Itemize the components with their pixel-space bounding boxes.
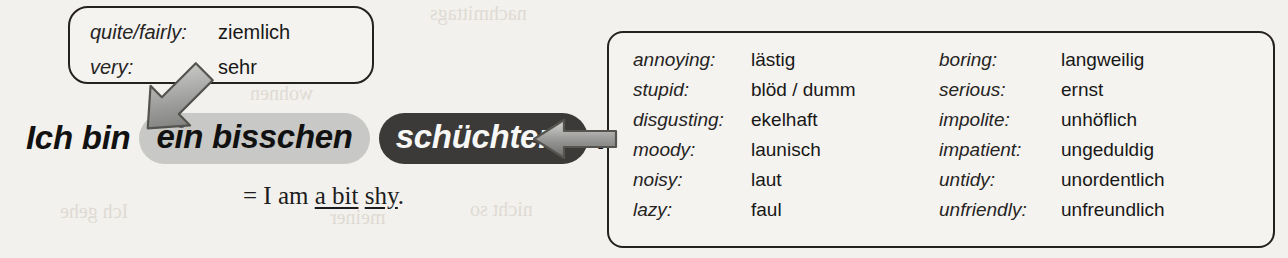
ghost-text: nachmittags xyxy=(430,2,527,25)
vocab-term: unfriendly: xyxy=(939,195,1061,224)
vocab-gloss: lästig xyxy=(751,45,856,74)
vocab-gloss: blöd / dumm xyxy=(751,75,856,104)
textbook-page-scan: nachmittags der Woche wohnen Ich gehe me… xyxy=(0,0,1288,258)
translation-underlined-adjective: shy xyxy=(365,182,398,209)
equals-sign: = xyxy=(243,182,257,209)
vocab-gloss: ziemlich xyxy=(218,16,290,49)
sentence-word-ich: Ich xyxy=(26,119,73,157)
vocab-gloss: unhöflich xyxy=(1061,105,1165,134)
adjective-vocabulary-callout: annoying: lästig stupid: blöd / dumm dis… xyxy=(607,31,1275,248)
translation-lead: I am xyxy=(263,182,308,209)
vocab-gloss: ernst xyxy=(1061,75,1165,104)
vocab-term: disgusting: xyxy=(633,105,751,134)
vocab-gloss: ekelhaft xyxy=(751,105,856,134)
vocab-gloss: unfreundlich xyxy=(1061,195,1165,224)
ghost-text: wohnen xyxy=(250,82,313,105)
vocab-term: boring: xyxy=(939,45,1061,74)
vocab-gloss: launisch xyxy=(751,135,856,164)
adjective-vocab-column-right: boring: langweilig serious: ernst impoli… xyxy=(939,45,1165,224)
vocab-term: impatient: xyxy=(939,135,1061,164)
translation-underlined-quantifier: a bit xyxy=(315,182,359,209)
vocab-term: moody: xyxy=(633,135,751,164)
vocab-gloss: ungeduldig xyxy=(1061,135,1165,164)
vocab-term: lazy: xyxy=(633,195,751,224)
adjective-vocab-column-left: annoying: lästig stupid: blöd / dumm dis… xyxy=(633,45,856,224)
example-sentence: Ich bin ein bisschen schüchtern . xyxy=(26,110,607,166)
vocab-term: untidy: xyxy=(939,165,1061,194)
intensifier-callout: quite/fairly: ziemlich very: sehr xyxy=(68,6,374,84)
translation-period: . xyxy=(398,182,404,209)
vocab-gloss: laut xyxy=(751,165,856,194)
ghost-text: Ich gehe xyxy=(60,200,128,223)
vocab-gloss: faul xyxy=(751,195,856,224)
vocab-gloss: sehr xyxy=(218,51,290,84)
english-translation: = I am a bit shy. xyxy=(243,182,404,210)
sentence-word-bin: bin xyxy=(82,119,131,157)
vocab-term: stupid: xyxy=(633,75,751,104)
vocab-term: quite/fairly: xyxy=(90,16,218,49)
vocab-gloss: langweilig xyxy=(1061,45,1165,74)
vocab-gloss: unordentlich xyxy=(1061,165,1165,194)
block-arrow-down-right-icon xyxy=(134,58,218,142)
vocab-term: annoying: xyxy=(633,45,751,74)
vocab-term: noisy: xyxy=(633,165,751,194)
ghost-text: nicht so xyxy=(470,198,533,221)
vocab-term: impolite: xyxy=(939,105,1061,134)
block-arrow-left-icon xyxy=(532,117,618,161)
vocab-term: serious: xyxy=(939,75,1061,104)
